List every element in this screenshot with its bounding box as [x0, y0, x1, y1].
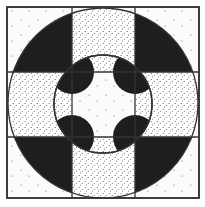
geometric-pattern-figure	[0, 0, 205, 207]
pattern-svg	[0, 0, 205, 207]
